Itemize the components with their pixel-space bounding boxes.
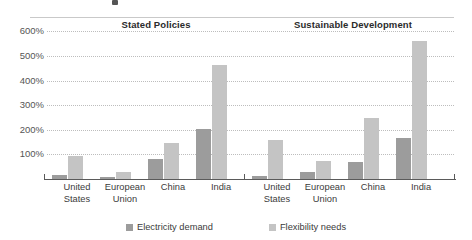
legend-swatch-icon [269,224,276,231]
bar [316,161,331,179]
x-axis-tick-right [454,174,455,180]
x-axis-category-label: United States [51,182,103,205]
bar [412,41,427,179]
bar [116,172,131,179]
x-axis-category-label: China [347,182,399,194]
bar [364,118,379,180]
bars-layer [0,0,472,179]
legend-label: Electricity demand [137,222,213,232]
bar [196,129,211,179]
bar [164,143,179,179]
x-axis-category-label: China [147,182,199,194]
chart-root: Stated Policies Sustainable Development … [0,0,472,240]
bar [348,162,363,179]
legend-item[interactable]: Flexibility needs [269,222,346,232]
x-axis-tick-middle [244,174,245,180]
bar [148,159,163,179]
x-axis-line [44,179,456,180]
x-axis-tick-left [44,174,45,180]
bar [300,172,315,179]
bar [396,138,411,179]
bar [68,156,83,179]
legend-item[interactable]: Electricity demand [126,222,213,232]
bar [212,65,227,179]
legend-label: Flexibility needs [280,222,346,232]
x-axis-category-label: India [395,182,447,194]
legend-swatch-icon [126,224,133,231]
chart-legend: Electricity demandFlexibility needs [0,219,472,235]
x-axis-category-label: European Union [99,182,151,205]
x-axis-category-label: United States [251,182,303,205]
bar [268,140,283,179]
x-axis-category-label: European Union [299,182,351,205]
x-axis-category-label: India [195,182,247,194]
